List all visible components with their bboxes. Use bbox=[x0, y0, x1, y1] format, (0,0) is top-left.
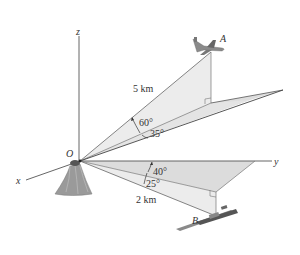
point-a-label: A bbox=[219, 33, 227, 44]
origin-label: O bbox=[66, 148, 73, 159]
z-axis-label: z bbox=[75, 26, 80, 37]
angle-25-label: 25° bbox=[146, 178, 160, 189]
position-vector-diagram: z x y O A B 5 km 2 km 60° 35° 40° 25° bbox=[0, 0, 300, 255]
volcano-icon bbox=[55, 160, 92, 196]
y-axis-label: y bbox=[273, 156, 279, 167]
x-axis-label: x bbox=[15, 175, 21, 186]
distance-a-label: 5 km bbox=[133, 83, 154, 94]
angle-40-label: 40° bbox=[153, 166, 167, 177]
distance-b-label: 2 km bbox=[136, 194, 157, 205]
point-b-label: B bbox=[192, 215, 198, 226]
angle-60-label: 60° bbox=[139, 117, 153, 128]
angle-35-label: 35° bbox=[150, 128, 164, 139]
